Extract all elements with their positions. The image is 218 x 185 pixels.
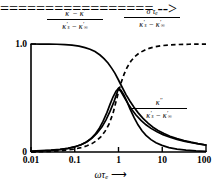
label-sigma-tau-denominator: κ's − κ'∞	[124, 19, 180, 29]
label-kappa-real-fraction: κ' − κ' κ's − κ'∞	[47, 8, 103, 30]
x-tick-label-100: 100	[197, 155, 211, 165]
x-tick-label-10: 10	[158, 155, 168, 165]
label-sigma-tau-fraction: σ τe κ's − κ'∞	[124, 8, 180, 29]
x-axis-title-sub: e	[105, 173, 108, 180]
x-tick-label-01: 0.1	[69, 155, 81, 165]
x-axis-arrow-icon: ⟶	[111, 168, 126, 180]
label-kappa-real-numerator: κ' − κ'	[47, 8, 103, 18]
x-axis-title-omega: ω	[94, 169, 101, 180]
x-axis-title: ωτe ⟶	[94, 168, 125, 181]
label-kappa-real-denominator: κ's − κ'∞	[47, 20, 103, 30]
label-sigma-tau-numerator: σ τe	[124, 8, 180, 17]
x-tick-label-1: 1	[116, 155, 121, 165]
label-kappa-loss-denominator: κ's − κ'∞	[131, 109, 187, 119]
label-kappa-loss-numerator: κ''	[131, 97, 187, 107]
x-tick-label-001: 0.01	[23, 155, 40, 165]
y-tick-label-1: 1.0	[3, 39, 27, 49]
label-kappa-loss-fraction: κ'' κ's − κ'∞	[131, 97, 187, 119]
debye-relaxation-figure: 1.0 0 0.01 0.1 1 10 100 ================…	[0, 0, 218, 185]
